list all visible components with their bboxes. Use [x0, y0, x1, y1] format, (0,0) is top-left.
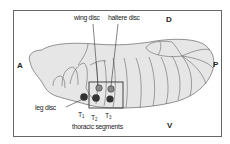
thoracic-segments-label: thoracic segments: [72, 123, 123, 131]
wing-disc-label: wing disc: [74, 14, 100, 22]
leg-disc-t2: [92, 94, 100, 102]
segment-t2: T2: [91, 114, 97, 122]
segment-t1: T1: [78, 111, 84, 119]
leg-disc-t1: [80, 93, 88, 101]
leg-disc-label: leg disc: [35, 104, 56, 112]
dorsal-label: D: [166, 16, 172, 24]
anterior-label: A: [17, 62, 23, 70]
haltere-disc: [108, 86, 114, 92]
segment-t3: T3: [105, 112, 111, 120]
leg-disc-t3: [106, 95, 113, 102]
ventral-label: V: [167, 122, 172, 130]
posterior-label: P: [213, 61, 218, 69]
haltere-disc-label: haltere disc: [108, 14, 140, 22]
wing-disc: [96, 85, 102, 91]
